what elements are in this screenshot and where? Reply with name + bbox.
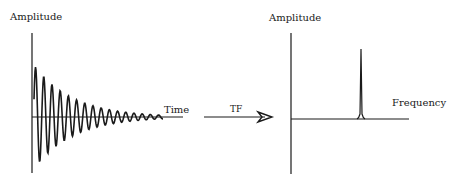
time-domain-y-axis-label: Amplitude — [9, 11, 62, 22]
transform-label: TF — [230, 104, 242, 114]
frequency-axis-label: Frequency — [392, 97, 446, 108]
time-axis-label: Time — [164, 104, 189, 115]
spectral-peak — [357, 49, 365, 119]
frequency-domain-panel: Amplitude Frequency — [268, 12, 446, 174]
damped-oscillation-wave — [34, 67, 163, 161]
time-domain-panel: Amplitude Time — [9, 11, 189, 173]
frequency-domain-y-axis-label: Amplitude — [268, 12, 321, 23]
transform-arrow: TF — [204, 104, 272, 122]
fourier-transform-diagram: Amplitude Time TF Amplitude Frequency — [0, 0, 457, 184]
